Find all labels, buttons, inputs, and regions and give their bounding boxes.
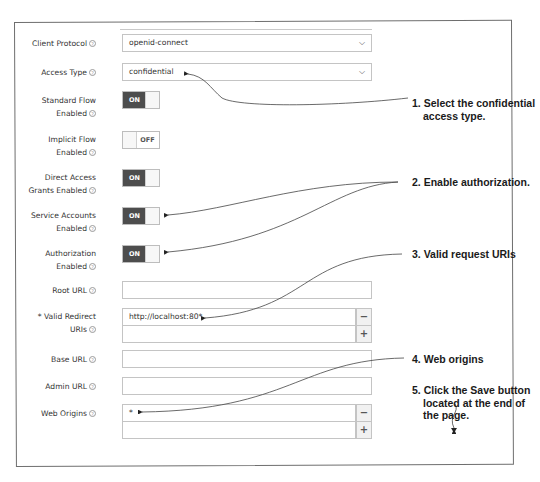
- callout-4: 4. Web origins: [412, 353, 484, 366]
- callout-5: 5. Click the Save button located at the …: [412, 384, 530, 422]
- callout-2: 2. Enable authorization.: [412, 176, 530, 189]
- callout-1: 1. Select the confidential access type.: [412, 97, 535, 122]
- callout-3: 3. Valid request URIs: [412, 248, 516, 261]
